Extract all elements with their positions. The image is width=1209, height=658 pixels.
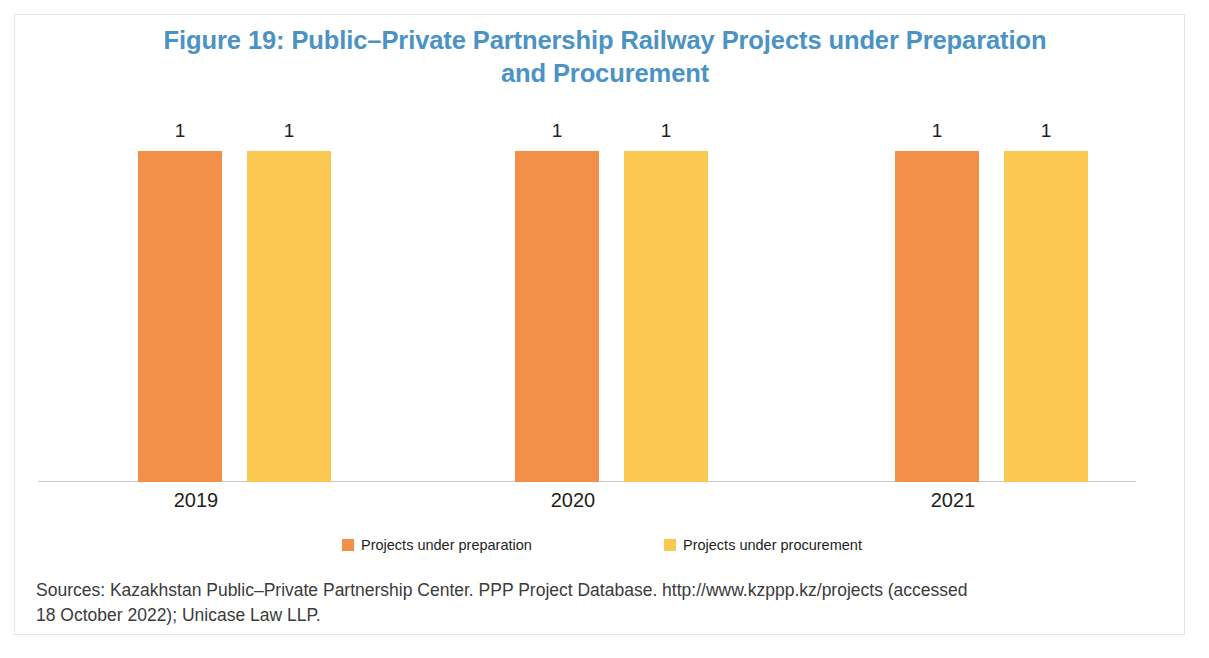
source-note-line-1: Sources: Kazakhstan Public–Private Partn… bbox=[36, 578, 1166, 603]
source-note-line-2: 18 October 2022); Unicase Law LLP. bbox=[36, 603, 1166, 628]
square-swatch-icon-preparation bbox=[342, 539, 354, 551]
square-swatch-icon-procurement bbox=[664, 539, 676, 551]
chart-title-line-2: and Procurement bbox=[120, 57, 1090, 90]
chart-title-line-1: Figure 19: Public–Private Partnership Ra… bbox=[120, 24, 1090, 57]
legend-item-projects-under-preparation[interactable]: Projects under preparation bbox=[342, 538, 532, 553]
source-note: Sources: Kazakhstan Public–Private Partn… bbox=[36, 578, 1166, 629]
legend-item-projects-under-procurement[interactable]: Projects under procurement bbox=[664, 538, 862, 553]
chart-title: Figure 19: Public–Private Partnership Ra… bbox=[120, 24, 1090, 90]
legend-label-preparation: Projects under preparation bbox=[361, 538, 532, 553]
legend-label-procurement: Projects under procurement bbox=[683, 538, 862, 553]
chart-legend: Projects under preparation Projects unde… bbox=[0, 538, 1209, 562]
